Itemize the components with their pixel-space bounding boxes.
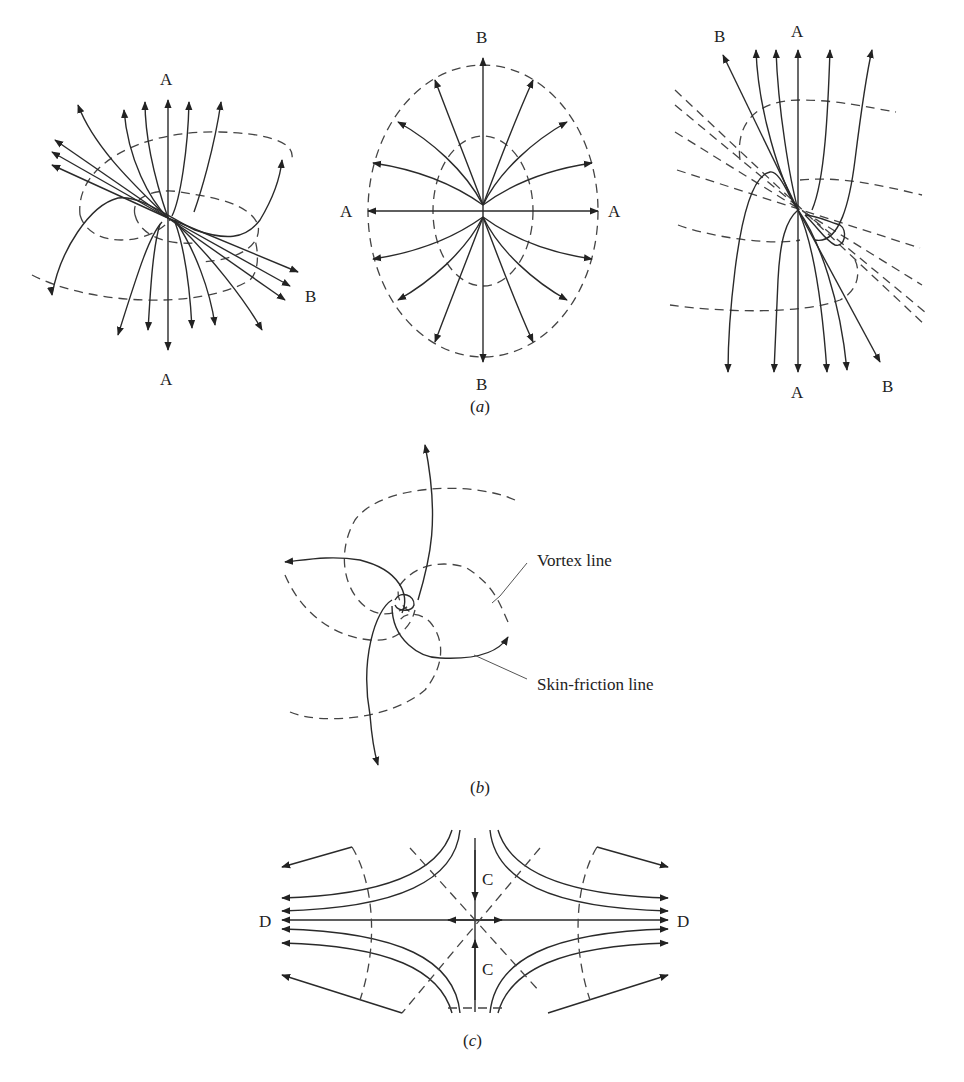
vortex-line: [578, 847, 597, 1000]
streamline: [175, 222, 192, 328]
vortex-line: [675, 105, 925, 312]
streamline: [398, 217, 483, 300]
streamline: [483, 217, 567, 300]
skin-friction-line-label: Skin-friction line: [537, 675, 654, 694]
streamline: [483, 80, 533, 205]
figure-canvas: A A B B B A A (a): [0, 0, 964, 1082]
streamline: [373, 163, 483, 205]
label-a-right: A: [608, 202, 621, 221]
streamline: [172, 102, 189, 216]
vortex-line-leader: [492, 563, 527, 603]
streamline: [815, 50, 872, 240]
streamline: [498, 830, 668, 898]
skin-friction-line: [418, 445, 433, 600]
label-c-bottom: C: [482, 960, 493, 979]
label-a-bottom: A: [160, 370, 173, 389]
caption-a: (a): [470, 397, 490, 416]
label-c-top: C: [482, 870, 493, 889]
streamline-b: [52, 165, 168, 218]
streamline-b: [798, 210, 880, 362]
label-d-right: D: [677, 912, 689, 931]
panel-c-diagram: C C D D (c): [259, 830, 689, 1050]
panel-b-diagram: Vortex line Skin-friction line (b): [285, 445, 654, 797]
streamline: [398, 122, 483, 205]
streamline: [728, 172, 798, 372]
label-b-bottom-right: B: [882, 377, 893, 396]
streamline: [597, 847, 668, 867]
skin-friction-line: [392, 606, 508, 658]
streamline: [145, 102, 168, 218]
vortex-line: [402, 848, 540, 1013]
streamline: [435, 217, 483, 342]
streamline: [483, 122, 567, 205]
skin-friction-line: [367, 600, 392, 765]
streamline: [282, 975, 402, 1013]
panel-a-left-diagram: A A B: [32, 70, 316, 389]
streamline: [483, 163, 592, 205]
label-b-top: B: [476, 28, 487, 47]
panel-a-right-diagram: B A A B: [670, 22, 925, 402]
streamline: [175, 222, 262, 330]
streamline: [373, 217, 483, 259]
vortex-line: [675, 90, 925, 325]
streamline: [483, 217, 533, 342]
streamline: [490, 830, 668, 911]
skin-friction-line-leader: [474, 655, 527, 679]
label-d-left: D: [259, 912, 271, 931]
streamline: [282, 830, 452, 898]
streamline: [282, 847, 352, 867]
streamline: [148, 224, 160, 330]
vortex-line: [285, 575, 415, 640]
streamline-b: [168, 218, 290, 286]
streamline-b: [52, 152, 168, 218]
label-a-top: A: [791, 22, 804, 41]
vortex-line: [290, 614, 441, 719]
streamline: [548, 975, 668, 1013]
label-b-top-left: B: [714, 27, 725, 46]
streamline: [435, 80, 483, 205]
vortex-line: [352, 847, 372, 1000]
streamline: [774, 210, 798, 372]
panel-a-center-diagram: B B A A (a): [340, 28, 621, 416]
label-a-left: A: [340, 202, 353, 221]
vortex-line: [134, 191, 258, 262]
caption-b: (b): [470, 778, 490, 797]
streamline: [812, 50, 830, 210]
label-b-bottom: B: [476, 375, 487, 394]
streamline: [483, 217, 592, 259]
label-a-bottom: A: [791, 383, 804, 402]
streamline: [282, 830, 460, 911]
label-b-right: B: [305, 287, 316, 306]
vortex-line-label: Vortex line: [537, 551, 612, 570]
caption-c: (c): [463, 1031, 482, 1050]
streamline: [118, 222, 162, 335]
label-a-top: A: [160, 70, 173, 89]
